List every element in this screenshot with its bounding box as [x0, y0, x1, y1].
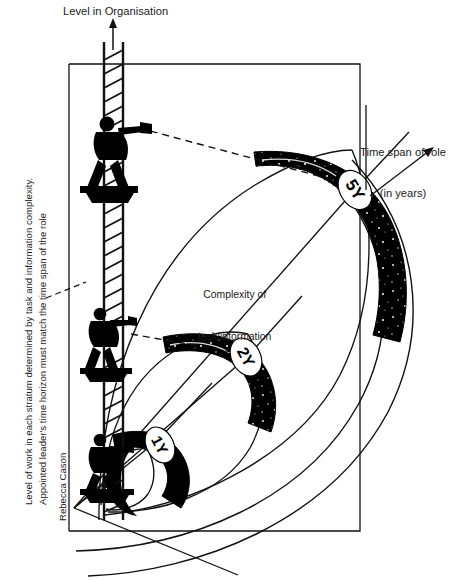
side-note-level-of-work: Level of work in each stratum determined… [22, 178, 51, 505]
axis-label-time-span-of-role: Time span of role (in years) [360, 119, 446, 228]
climber-with-spyglass-icon-top [80, 117, 152, 204]
complexity-leader-line [46, 282, 86, 298]
axis-label-level-in-organisation: Level in Organisation [63, 5, 168, 19]
time-span-line-1: Time span of role [360, 146, 446, 160]
center-label-complexity: Complexity of task/information [198, 261, 271, 371]
credit-label: Rebecca Cason [57, 453, 69, 521]
complexity-line-2: task/information [198, 330, 271, 344]
time-span-line-2: (in years) [360, 187, 446, 201]
side-note-line-2: Appointed leader's time horizon must mat… [36, 178, 50, 505]
time-span-of-role-diagram: 5Y 2Y 1Y Level in Organis [0, 0, 461, 581]
up-arrow-icon [109, 18, 117, 50]
complexity-line-1: Complexity of [198, 288, 271, 302]
side-note-line-1: Level of work in each stratum determined… [22, 178, 36, 505]
